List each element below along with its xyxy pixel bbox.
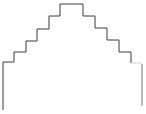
right-staircase — [83, 4, 131, 63]
left-staircase — [3, 4, 60, 110]
stepped-outline-diagram — [0, 0, 146, 114]
